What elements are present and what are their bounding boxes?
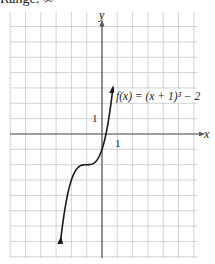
axes bbox=[10, 23, 202, 258]
x-axis-label: x bbox=[203, 127, 210, 141]
function-graph: x y 1 1 f(x) = (x + 1)³ − 2 bbox=[0, 0, 215, 264]
x-tick-label: 1 bbox=[115, 137, 121, 149]
y-tick-label: 1 bbox=[92, 112, 98, 124]
function-label: f(x) = (x + 1)³ − 2 bbox=[116, 90, 200, 103]
grid-lines bbox=[10, 12, 197, 258]
y-axis-label: y bbox=[98, 8, 105, 22]
